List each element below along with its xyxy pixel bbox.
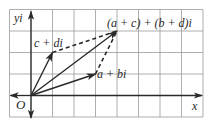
- y-axis-label: yi: [13, 11, 23, 25]
- label-c-plus-di: c + di: [34, 36, 63, 50]
- diagram-canvas: yi x O c + di a + bi (a + c) + (b + d)i: [0, 0, 210, 124]
- labels: yi x O c + di a + bi (a + c) + (b + d)i: [13, 11, 198, 113]
- label-sum: (a + c) + (b + d)i: [107, 16, 192, 30]
- origin-label: O: [16, 97, 26, 112]
- label-a-plus-bi: a + bi: [97, 67, 126, 81]
- complex-plane-diagram: yi x O c + di a + bi (a + c) + (b + d)i: [0, 0, 210, 124]
- x-axis-label: x: [191, 99, 198, 113]
